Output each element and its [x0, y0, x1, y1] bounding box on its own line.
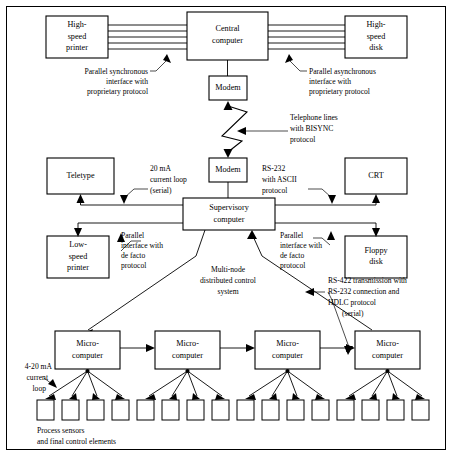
- sensor-box[interactable]: [362, 400, 379, 420]
- link-micro-2-to-3: [220, 344, 255, 352]
- parallel-defacto-left-line-4: protocol: [121, 261, 146, 270]
- microcomputer-2-label-2: computer: [172, 351, 203, 360]
- sensor-box[interactable]: [387, 400, 404, 420]
- parallel-defacto-right-line-4: protocol: [280, 261, 305, 270]
- microcomputer-3-label-2: computer: [272, 351, 303, 360]
- current-loop-4-20ma-line-2: current: [26, 373, 48, 382]
- rs422-line-2: RS-232 connection and: [328, 287, 399, 296]
- parallel-sync-line-1: Parallel synchronous: [85, 67, 149, 76]
- central-computer-label-1: Central: [215, 24, 240, 33]
- leader-parallel-sync: [150, 54, 171, 71]
- microcomputer-1-label-1: Micro-: [76, 339, 99, 348]
- high-speed-printer-label-1: High-: [67, 20, 86, 29]
- microcomputer-3-label-1: Micro-: [276, 339, 299, 348]
- microcomputer-4-label-2: computer: [372, 351, 403, 360]
- parallel-sync-line-2: interface with: [106, 77, 148, 86]
- sensor-box[interactable]: [62, 400, 79, 420]
- sensor-fanout-4: [349, 371, 422, 396]
- parallel-defacto-right-line-1: Parallel: [280, 231, 303, 240]
- microcomputer-4-label-1: Micro-: [376, 339, 399, 348]
- teletype-label: Teletype: [66, 171, 94, 180]
- parallel-sync-line-3: proprietary protocol: [87, 87, 148, 96]
- modem-top-label: Modem: [215, 83, 241, 92]
- supervisory-computer-label-2: computer: [214, 215, 245, 224]
- low-speed-printer-label-2: speed: [69, 252, 88, 261]
- rs422-line-4: (serial): [342, 309, 364, 318]
- rs232-ascii-line-3: protocol: [262, 186, 287, 195]
- sensor-box[interactable]: [237, 400, 254, 420]
- central-computer-label-2: computer: [212, 36, 243, 45]
- block-diagram-canvas: High- speed printer Central computer Hig…: [0, 0, 452, 456]
- current-loop-4-20ma-line-3: loop: [32, 384, 46, 393]
- parallel-async-line-3: proprietary protocol: [309, 87, 370, 96]
- sensor-box[interactable]: [162, 400, 179, 420]
- leader-rs232-ascii: [308, 189, 336, 204]
- telephone-lines-line-3: protocol: [290, 135, 315, 144]
- rs232-ascii-line-2: with ASCII: [262, 175, 297, 184]
- leader-telephone-lines: [237, 127, 288, 135]
- current-loop-20ma-line-2: current loop: [150, 175, 187, 184]
- parallel-defacto-left-line-1: Parallel: [121, 231, 144, 240]
- multi-node-line-2: distributed control: [200, 276, 256, 285]
- sensor-box-row: [37, 400, 429, 420]
- current-loop-20ma-line-3: (serial): [150, 186, 172, 195]
- rs232-ascii-line-1: RS-232: [262, 164, 285, 173]
- sensor-box[interactable]: [312, 400, 329, 420]
- sensor-fanout-2: [149, 371, 222, 396]
- parallel-async-line-2: interface with: [309, 77, 351, 86]
- sensor-box[interactable]: [287, 400, 304, 420]
- high-speed-disk-label-1: High-: [366, 20, 385, 29]
- parallel-defacto-left-line-2: interface with: [121, 241, 163, 250]
- current-loop-20ma-line-1: 20 mA: [150, 164, 171, 173]
- sensor-box[interactable]: [412, 400, 429, 420]
- sensor-box[interactable]: [262, 400, 279, 420]
- sensor-box[interactable]: [337, 400, 354, 420]
- link-supervisory-crt: [275, 194, 380, 205]
- process-sensors-line-1: Process sensors: [37, 426, 85, 435]
- leader-current-loop-20ma: [120, 189, 148, 204]
- low-speed-printer-label-3: printer: [67, 263, 89, 272]
- sensor-box[interactable]: [112, 400, 129, 420]
- sensor-fanout-3: [249, 371, 322, 396]
- sensor-box[interactable]: [137, 400, 154, 420]
- floppy-disk-label-1: Floppy: [364, 246, 388, 255]
- current-loop-4-20ma-line-1: 4-20 mA: [25, 362, 53, 371]
- link-micro-1-to-2: [120, 344, 155, 352]
- rs422-line-1: RS-422 transmission with: [328, 276, 407, 285]
- link-supervisory-teletype: [77, 194, 184, 205]
- high-speed-printer-label-2: speed: [68, 32, 87, 41]
- diagram-svg: High- speed printer Central computer Hig…: [0, 0, 452, 456]
- telephone-lines-line-1: Telephone lines: [290, 113, 338, 122]
- sensor-box[interactable]: [87, 400, 104, 420]
- sensor-box[interactable]: [187, 400, 204, 420]
- sensor-box[interactable]: [212, 400, 229, 420]
- floppy-disk-label-2: disk: [369, 257, 384, 266]
- high-speed-disk-label-3: disk: [369, 43, 384, 52]
- parallel-defacto-left-line-3: de facto: [121, 251, 145, 260]
- sensor-fanout-1: [49, 371, 122, 396]
- supervisory-computer-label-1: Supervisory: [209, 203, 249, 212]
- multi-node-line-1: Multi-node: [211, 265, 246, 274]
- microcomputer-2-label-1: Micro-: [176, 339, 199, 348]
- parallel-async-line-1: Parallel asynchronous: [309, 67, 376, 76]
- modem-bottom-label: Modem: [215, 165, 241, 174]
- crt-label: CRT: [368, 171, 383, 180]
- multi-node-line-3: system: [217, 287, 238, 296]
- parallel-bus-left: [108, 25, 187, 49]
- parallel-bus-right: [268, 25, 345, 49]
- telephone-lines-line-2: with BISYNC: [290, 124, 333, 133]
- high-speed-printer-label-3: printer: [66, 43, 88, 52]
- leader-parallel-async: [285, 54, 307, 71]
- high-speed-disk-label-2: speed: [367, 32, 386, 41]
- process-sensors-line-2: and final control elements: [37, 437, 116, 446]
- parallel-defacto-right-line-2: interface with: [280, 241, 322, 250]
- sensor-box[interactable]: [37, 400, 54, 420]
- microcomputer-1-label-2: computer: [72, 351, 103, 360]
- rs422-line-3: HDLC protocol: [328, 298, 376, 307]
- parallel-defacto-right-line-3: de facto: [280, 251, 304, 260]
- low-speed-printer-label-1: Low-: [69, 240, 87, 249]
